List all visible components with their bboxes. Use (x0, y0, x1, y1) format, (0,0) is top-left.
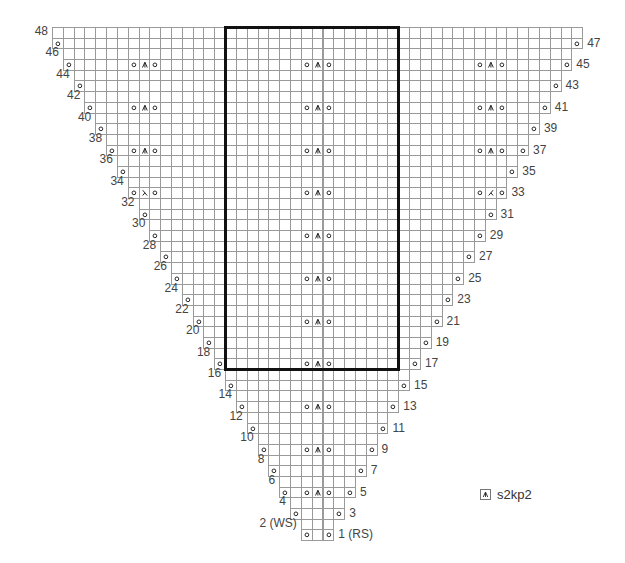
yo-icon (302, 231, 312, 241)
row-label: 48 (0, 25, 48, 37)
chart-cell (409, 348, 421, 360)
knitting-chart: 1 (RS)2 (WS)3456789101112131415161718192… (0, 0, 625, 563)
yo-icon (399, 381, 409, 391)
row-label: 6 (215, 474, 275, 486)
row-label: 23 (457, 293, 470, 305)
s2kp2-icon (313, 402, 323, 412)
yo-icon (129, 146, 139, 156)
s2kp2-icon (486, 60, 496, 70)
row-label: 19 (436, 336, 449, 348)
chart-cell (550, 80, 562, 92)
yo-icon (150, 60, 160, 70)
yo-icon (324, 317, 334, 327)
s2kp2-icon (480, 489, 491, 500)
row-label: 22 (129, 303, 189, 315)
row-label: 2 (WS) (237, 517, 297, 529)
yo-icon (475, 146, 485, 156)
yo-icon (129, 103, 139, 113)
yo-icon (324, 402, 334, 412)
chart-cell (474, 230, 486, 242)
row-label: 37 (533, 144, 546, 156)
chart-cell (366, 433, 378, 445)
yo-icon (324, 445, 334, 455)
row-label: 32 (75, 196, 135, 208)
yo-icon (302, 402, 312, 412)
row-label: 21 (447, 315, 460, 327)
chart-cell (420, 337, 432, 349)
row-label: 46 (0, 46, 59, 58)
yo-icon (378, 424, 388, 434)
chart-cell (571, 38, 583, 50)
yo-icon (388, 402, 398, 412)
yo-icon (302, 188, 312, 198)
chart-cell (387, 390, 399, 402)
yo-icon (324, 188, 334, 198)
s2kp2-icon (486, 146, 496, 156)
chart-cell (344, 487, 356, 499)
chart-cell (333, 497, 345, 509)
yo-icon (497, 60, 507, 70)
yo-icon (302, 60, 312, 70)
row-label: 12 (183, 410, 243, 422)
yo-icon (302, 488, 312, 498)
yo-icon (562, 60, 572, 70)
chart-cell (528, 113, 540, 125)
yo-icon (518, 146, 528, 156)
yo-icon (475, 231, 485, 241)
s2kp2-icon (140, 60, 150, 70)
chart-cell (474, 219, 486, 231)
chart-cell (420, 326, 432, 338)
row-label: 20 (139, 324, 199, 336)
yo-icon (443, 295, 453, 305)
legend-label: s2kp2 (497, 487, 532, 502)
row-label: 38 (42, 132, 102, 144)
s2kp2-icon (313, 231, 323, 241)
yo-icon (324, 103, 334, 113)
row-label: 41 (555, 101, 568, 113)
row-label: 40 (31, 111, 91, 123)
row-label: 3 (349, 507, 356, 519)
row-label: 16 (161, 367, 221, 379)
row-label: 42 (20, 89, 80, 101)
yo-icon (324, 488, 334, 498)
yo-icon (497, 103, 507, 113)
yo-icon (150, 146, 160, 156)
legend: s2kp2 (480, 487, 532, 502)
yo-icon (497, 146, 507, 156)
s2kp2-icon (313, 146, 323, 156)
yo-icon (302, 445, 312, 455)
yo-icon (507, 167, 517, 177)
yo-icon (572, 39, 582, 49)
row-label: 34 (64, 175, 124, 187)
s2kp2-icon (313, 445, 323, 455)
chart-cell (431, 305, 443, 317)
row-label: 13 (403, 400, 416, 412)
row-label: 24 (118, 282, 178, 294)
yo-icon (324, 60, 334, 70)
chart-cell (517, 134, 529, 146)
yo-icon (475, 60, 485, 70)
row-label: 7 (371, 464, 378, 476)
yo-icon (302, 103, 312, 113)
row-label: 39 (544, 122, 557, 134)
row-label: 30 (85, 217, 145, 229)
chart-cell (452, 262, 464, 274)
yo-icon (324, 231, 334, 241)
chart-cell (485, 198, 497, 210)
chart-cell (561, 48, 573, 60)
yo-icon (475, 188, 485, 198)
row-label: 35 (522, 165, 535, 177)
chart-cell (366, 444, 378, 456)
s2kp2-icon (140, 146, 150, 156)
chart-cell (485, 209, 497, 221)
s2kp2-icon (486, 103, 496, 113)
chart-cell (377, 423, 389, 435)
yo-icon (302, 317, 312, 327)
chart-cell (333, 508, 345, 520)
yo-icon (324, 146, 334, 156)
yo-icon (302, 359, 312, 369)
chart-cell (377, 412, 389, 424)
yo-icon (540, 103, 550, 113)
row-label: 43 (566, 79, 579, 91)
row-label: 17 (425, 357, 438, 369)
